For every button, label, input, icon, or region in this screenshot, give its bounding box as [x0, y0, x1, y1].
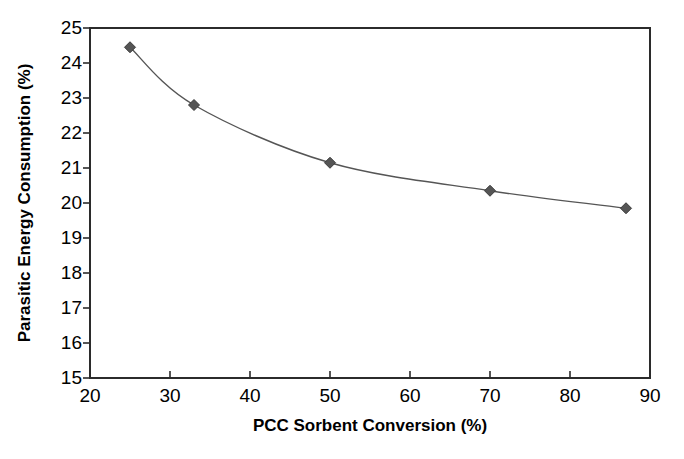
x-axis-tick-label: 50	[300, 386, 360, 405]
x-axis-tick-label: 40	[220, 386, 280, 405]
x-axis-tick-labels: 2030405060708090	[0, 0, 684, 459]
x-axis-title: PCC Sorbent Conversion (%)	[90, 416, 650, 436]
x-axis-tick-label: 90	[620, 386, 680, 405]
x-axis-tick-label: 80	[540, 386, 600, 405]
x-axis-tick-label: 70	[460, 386, 520, 405]
x-axis-tick-label: 60	[380, 386, 440, 405]
chart-figure: Parasitic Energy Consumption (%) 1516171…	[0, 0, 684, 459]
x-axis-tick-label: 30	[140, 386, 200, 405]
x-axis-tick-label: 20	[60, 386, 120, 405]
